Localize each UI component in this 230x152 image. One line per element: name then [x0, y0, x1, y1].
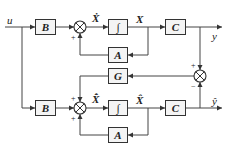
error-minus-sign: −	[191, 83, 196, 91]
observer-b-block: B	[35, 100, 56, 116]
error-plus-sign: +	[191, 62, 196, 70]
observer-a-block: A	[108, 127, 128, 143]
plant-c-block: C	[165, 19, 186, 35]
estimated-state-derivative-label: X̂̇	[92, 94, 99, 105]
plant-integrator-block: ∫	[108, 19, 128, 35]
observer-gain-g-block: G	[108, 68, 128, 84]
observer-feedback-sign: +	[71, 115, 76, 123]
estimated-state-label: X̂	[136, 95, 143, 106]
plant-feedback-sign: +	[71, 34, 76, 42]
state-x-label: X	[136, 14, 143, 25]
input-u-label: u	[7, 15, 13, 26]
state-derivative-label: Ẋ	[92, 13, 99, 24]
plant-a-block: A	[108, 47, 128, 63]
observer-integrator-block: ∫	[108, 100, 128, 116]
observer-gain-sign: +	[71, 95, 76, 103]
output-y-label: y	[212, 31, 217, 42]
plant-b-block: B	[35, 19, 56, 35]
observer-c-block: C	[165, 100, 186, 116]
estimated-output-label: ŷ	[212, 96, 217, 107]
